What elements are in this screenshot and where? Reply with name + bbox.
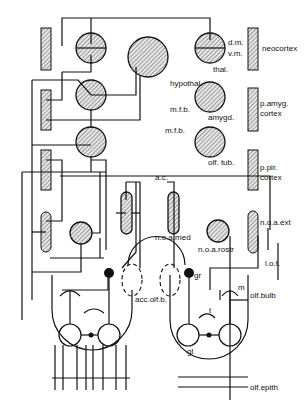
label-noa-ext: n.o.a.ext: [260, 218, 291, 227]
label-olf-tub: olf. tub.: [208, 158, 234, 167]
noa-rostr-nucleus: [207, 220, 229, 242]
label-noa-rostr: n.o.a.rostr: [198, 245, 234, 254]
amyg-cortex-strip-left: [41, 90, 51, 130]
neocortex-strip-left: [41, 28, 51, 70]
label-dm: d.m.: [228, 38, 244, 47]
pir-cortex-strip-left: [41, 150, 51, 190]
olfactory-circuit-diagram: d.m. v.m. thal. neocortex hypothal. amyg…: [0, 0, 304, 405]
hypothalamus-nucleus: [128, 37, 168, 77]
label-t: t: [209, 306, 212, 315]
label-thal: thal.: [213, 65, 228, 74]
noa-ext-strip: [248, 211, 258, 253]
glomerulus-cell: [177, 324, 199, 346]
olf-tub-nucleus: [195, 127, 225, 157]
label-mfb-2: m.f.b.: [165, 126, 185, 135]
label-vm: v.m.: [228, 49, 243, 58]
label-hypothal: hypothal.: [170, 79, 202, 88]
label-neocortex: neocortex: [262, 44, 297, 53]
amyg-cortex-strip: [248, 88, 258, 131]
label-p-amyg: p.amyg.: [260, 99, 288, 108]
mitral-cell-left-1: [59, 324, 81, 346]
granule-cell-right: [184, 268, 194, 278]
noa-rostr-left-nucleus: [70, 222, 92, 244]
label-ac: a.c.: [155, 173, 168, 182]
mitral-cell-left-2: [98, 324, 120, 346]
label-mfb-1: m.f.b.: [170, 105, 190, 114]
label-gr: gr: [194, 271, 201, 280]
label-amygd: amygd.: [208, 113, 234, 122]
label-lot: l.o.t.: [265, 259, 280, 268]
label-p-pir: p.pir.: [260, 163, 277, 172]
label-m: m: [238, 283, 245, 292]
neocortex-strip: [248, 28, 258, 70]
label-olf-epith: olf.epith: [250, 383, 278, 392]
olf-tub-left-nucleus: [76, 127, 106, 157]
label-noa-med: n.o.a.med: [155, 233, 191, 242]
label-acc-olf-b: acc.olf.b.: [135, 295, 167, 304]
granule-cell-left: [104, 268, 114, 278]
label-p-amyg-cortex: cortex: [260, 109, 282, 118]
label-olf-bulb: olf.bulb: [250, 291, 276, 300]
label-gl: gl: [187, 347, 193, 356]
pir-cortex-strip: [248, 150, 258, 190]
label-p-pir-cortex: cortex: [260, 173, 282, 182]
